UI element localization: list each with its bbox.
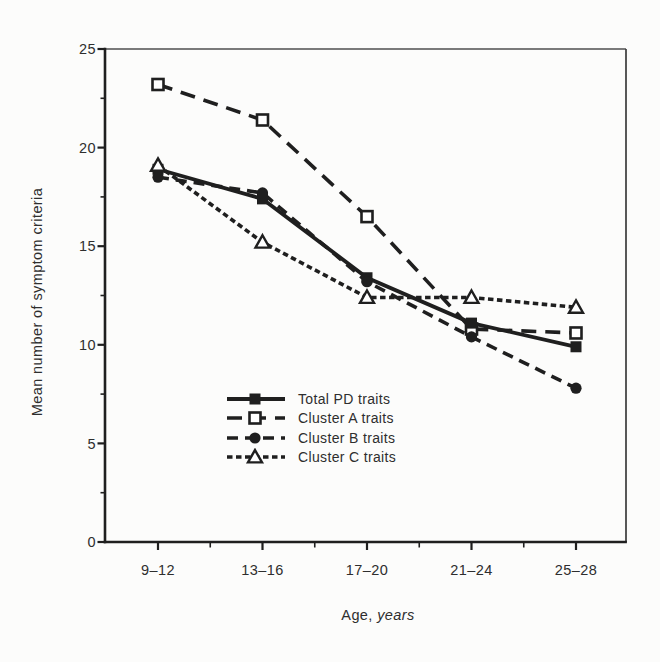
x-tick-label: 9–12 bbox=[141, 562, 175, 578]
marker-total-pd-traits bbox=[571, 341, 582, 352]
x-axis-title-italic: years bbox=[377, 607, 414, 623]
marker-cluster-b-traits bbox=[257, 187, 268, 198]
legend-sample-cluster-a-traits bbox=[227, 409, 285, 427]
y-tick-label: 10 bbox=[79, 337, 96, 353]
marker-cluster-a-traits bbox=[153, 79, 164, 90]
legend-marker-total-pd-traits bbox=[250, 393, 261, 404]
y-tick-label: 20 bbox=[79, 140, 96, 156]
series-line-total-pd-traits bbox=[158, 169, 576, 346]
y-tick-label: 0 bbox=[88, 534, 96, 550]
marker-cluster-c-traits bbox=[256, 235, 270, 247]
x-axis-title: Age, years bbox=[341, 607, 414, 623]
marker-cluster-b-traits bbox=[570, 383, 581, 394]
legend-sample-cluster-c-traits bbox=[227, 448, 285, 466]
x-tick-label: 13–16 bbox=[241, 562, 283, 578]
marker-total-pd-traits bbox=[466, 318, 477, 329]
y-tick-label: 15 bbox=[79, 238, 96, 254]
legend-sample-total-pd-traits bbox=[227, 390, 285, 408]
line-chart-plot: 05101520259–1213–1617–2021–2425–28 bbox=[0, 0, 660, 662]
legend-marker-cluster-b-traits bbox=[249, 432, 260, 443]
series-cluster-b-traits bbox=[152, 172, 581, 394]
marker-cluster-c-traits bbox=[465, 290, 479, 302]
x-tick-label: 17–20 bbox=[346, 562, 388, 578]
legend-item-total-pd-traits: Total PD traits bbox=[227, 389, 396, 409]
legend-label-cluster-b-traits: Cluster B traits bbox=[298, 430, 395, 446]
legend: Total PD traitsCluster A traitsCluster B… bbox=[227, 389, 396, 467]
legend-label-cluster-c-traits: Cluster C traits bbox=[298, 449, 396, 465]
marker-cluster-a-traits bbox=[571, 327, 582, 338]
legend-label-cluster-a-traits: Cluster A traits bbox=[298, 410, 394, 426]
y-tick-label: 25 bbox=[79, 41, 96, 57]
marker-cluster-a-traits bbox=[362, 211, 373, 222]
x-axis-title-regular: Age, bbox=[341, 607, 372, 623]
marker-cluster-b-traits bbox=[466, 331, 477, 342]
marker-cluster-b-traits bbox=[361, 276, 372, 287]
series-total-pd-traits bbox=[153, 164, 582, 352]
marker-cluster-a-traits bbox=[257, 114, 268, 125]
x-tick-label: 25–28 bbox=[555, 562, 597, 578]
legend-label-total-pd-traits: Total PD traits bbox=[298, 391, 390, 407]
y-tick-label: 5 bbox=[88, 436, 96, 452]
x-tick-label: 21–24 bbox=[450, 562, 492, 578]
legend-item-cluster-b-traits: Cluster B traits bbox=[227, 428, 396, 448]
y-axis-title: Mean number of symptom criteria bbox=[29, 188, 45, 416]
chart-figure: 05101520259–1213–1617–2021–2425–28 Mean … bbox=[0, 0, 660, 662]
series-cluster-c-traits bbox=[151, 158, 583, 312]
legend-sample-cluster-b-traits bbox=[227, 429, 285, 447]
legend-item-cluster-c-traits: Cluster C traits bbox=[227, 448, 396, 468]
legend-marker-cluster-a-traits bbox=[250, 413, 261, 424]
legend-item-cluster-a-traits: Cluster A traits bbox=[227, 409, 396, 429]
marker-cluster-b-traits bbox=[152, 172, 163, 183]
